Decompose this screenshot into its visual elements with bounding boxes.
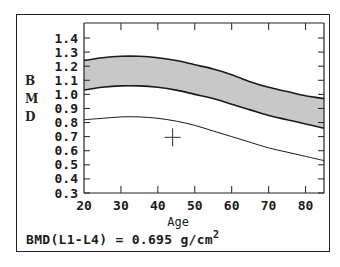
- bmd-chart: 1.41.31.21.11.00.90.80.70.60.50.40.32030…: [0, 0, 340, 267]
- y-tick-label: 0.5: [55, 157, 78, 172]
- y-tick-label: 1.3: [55, 45, 78, 60]
- y-tick-label: 1.4: [55, 31, 79, 46]
- y-tick-label: 1.1: [55, 73, 79, 88]
- bmd-result-text: BMD(L1-L4) = 0.695 g/cm: [26, 232, 213, 247]
- x-tick-label: 50: [187, 198, 203, 213]
- y-tick-label: 0.3: [55, 186, 78, 201]
- bmd-unit-superscript: 2: [213, 229, 219, 240]
- x-tick-label: 20: [76, 198, 92, 213]
- x-tick-label: 60: [224, 198, 240, 213]
- x-tick-label: 30: [113, 198, 129, 213]
- bmd-result-annotation: BMD(L1-L4) = 0.695 g/cm2: [26, 229, 219, 247]
- lower-reference-curve: [84, 117, 324, 161]
- y-tick-label: 0.9: [55, 101, 78, 116]
- y-tick-label: 1.0: [55, 87, 79, 102]
- x-tick-label: 40: [150, 198, 166, 213]
- y-axis-label-d: D: [25, 110, 35, 124]
- x-tick-label: 70: [261, 198, 277, 213]
- y-tick-label: 0.8: [55, 115, 79, 130]
- x-tick-label: 80: [298, 198, 314, 213]
- y-axis-label-m: M: [25, 92, 38, 106]
- y-tick-label: 0.6: [55, 143, 79, 158]
- x-axis-label: Age: [167, 215, 189, 229]
- y-tick-label: 1.2: [55, 59, 78, 74]
- y-tick-label: 0.7: [55, 129, 78, 144]
- y-axis-label-b: B: [25, 74, 35, 88]
- y-tick-label: 0.4: [55, 171, 79, 186]
